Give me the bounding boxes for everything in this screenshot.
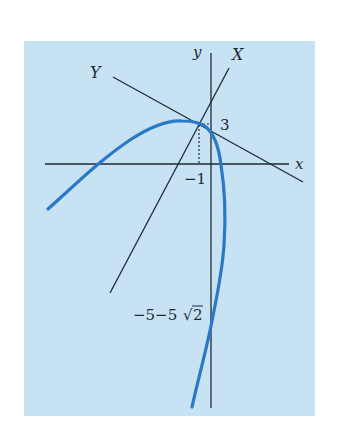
Y-axis-label: Y [90, 63, 102, 82]
diagram: y X Y 3 x −1 −5−5 √ 2 [0, 0, 341, 442]
x-axis-label: x [295, 155, 304, 173]
sqrt-symbol: √ [183, 306, 193, 324]
X-axis-label: X [230, 45, 244, 64]
y-intercept-prefix: −5−5 [133, 306, 177, 324]
y-axis-label: y [192, 43, 202, 61]
background-panel [24, 41, 315, 416]
point-x-label: −1 [184, 170, 206, 188]
point-y-label: 3 [220, 116, 230, 134]
y-intercept-label: −5−5 √ 2 [133, 306, 203, 324]
y-intercept-radicand: 2 [193, 306, 203, 324]
